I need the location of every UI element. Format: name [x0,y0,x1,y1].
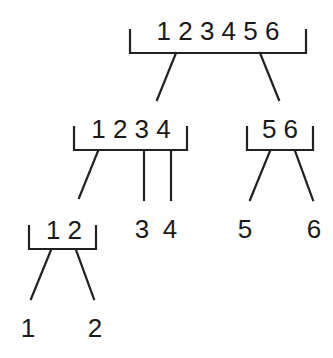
label-56: 5 6 [262,114,298,144]
leaf-6: 6 [307,214,321,244]
edge-56-to-6 [295,151,313,200]
merge-tree-diagram: 1 2 3 4 5 6 1 2 3 4 5 6 1 2 3 4 5 6 1 2 [0,0,333,358]
node-root: 1 2 3 4 5 6 [130,16,306,53]
edge-12-to-1 [31,250,51,299]
leaf-1: 1 [21,313,35,343]
edge-root-to-1234 [157,53,176,100]
label-1234: 1 2 3 4 [91,114,171,144]
node-56: 5 6 [247,114,313,150]
leaf-4: 4 [163,214,177,244]
node-1234: 1 2 3 4 [74,114,187,150]
edge-root-to-56 [260,53,279,100]
edge-12-to-2 [76,250,94,299]
leaf-2: 2 [88,313,102,343]
edge-1234-to-12 [79,151,98,198]
node-12: 1 2 [29,215,96,249]
label-12: 1 2 [46,215,82,245]
leaf-5: 5 [238,214,252,244]
label-root: 1 2 3 4 5 6 [157,16,280,46]
edge-56-to-5 [250,151,270,200]
leaf-3: 3 [135,214,149,244]
